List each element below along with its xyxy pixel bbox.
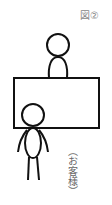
table [14,78,99,128]
customer-left-leg [28,157,29,180]
staff-head [47,34,69,56]
staff-person-icon [47,34,69,78]
customer-right-leg [37,157,39,180]
customer-body [25,128,41,158]
seating-diagram [0,0,112,205]
customer-person-icon [18,104,48,180]
customer-label: （お客様） [65,146,77,196]
staff-body [49,57,67,78]
customer-head [22,104,44,126]
